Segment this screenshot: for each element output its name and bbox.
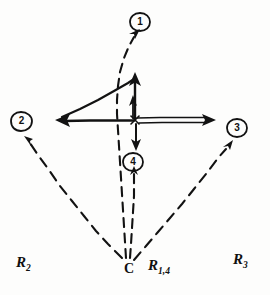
diagram-strokes <box>0 0 270 295</box>
dashed-ray-c-to-2 <box>24 136 122 258</box>
region-r14-subscript: 1,4 <box>158 266 170 276</box>
node-label-1: 1 <box>130 17 150 27</box>
dashed-ray-c-to-3 <box>134 140 233 260</box>
region-r2-subscript: 2 <box>26 263 31 273</box>
node-label-4: 4 <box>123 157 143 167</box>
region-r3-subscript: 3 <box>243 260 248 270</box>
solid-diagonal-edge <box>62 79 134 117</box>
figure-canvas: 1 2 3 4 C R2 R1,4 R3 <box>0 0 270 295</box>
node-label-2: 2 <box>11 116 32 126</box>
region-r14-base: R <box>148 257 158 273</box>
solid-vertical-apex-vector <box>129 72 141 119</box>
region-label-r14: R1,4 <box>148 258 170 277</box>
solid-horizontal-right-vector <box>137 114 216 126</box>
node-label-3: 3 <box>227 123 247 133</box>
solid-down-vector-to-4 <box>131 124 141 151</box>
point-label-c: C <box>124 262 134 276</box>
region-label-r3: R3 <box>233 252 248 271</box>
region-r3-base: R <box>233 251 243 267</box>
region-r2-base: R <box>16 254 26 270</box>
region-label-r2: R2 <box>16 255 31 274</box>
dashed-ray-c-to-4 <box>130 166 138 258</box>
